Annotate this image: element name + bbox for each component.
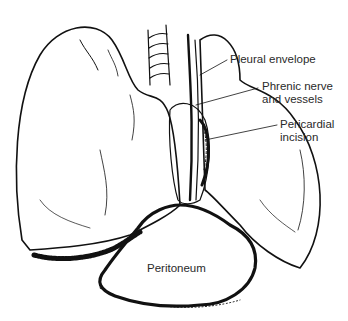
phrenic-nerve [188,35,192,200]
leader-phrenic [196,88,258,105]
trachea [148,25,170,85]
label-peritoneum: Peritoneum [147,262,206,275]
label-pleural-envelope: Pleural envelope [230,53,316,66]
right-lung [200,35,320,268]
left-lung [16,27,180,250]
label-phrenic-nerve: Phrenic nerve and vessels [262,80,333,106]
peritoneum-outline [100,205,256,306]
leader-pericardial [205,125,277,140]
leader-pleural [200,60,227,75]
label-pericardial-incision: Pericardial incision [280,118,334,144]
